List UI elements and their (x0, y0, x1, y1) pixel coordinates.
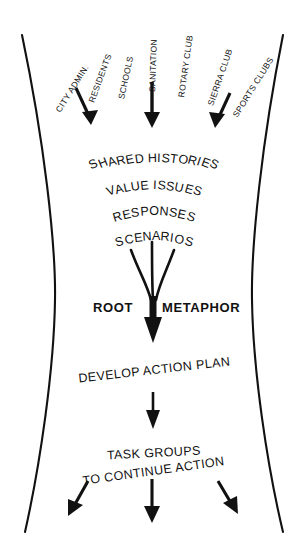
root-metaphor-right-label: METAPHOR (162, 300, 240, 315)
convergence-funnel (131, 242, 174, 343)
root-metaphor-diagram: CITY ADMIN. RESIDENTS SCHOOLS SANITATION… (0, 0, 308, 547)
arc-character: A (152, 229, 160, 243)
arc-character: H (148, 151, 157, 165)
outcome-line-2: TO CONTINUE ACTION (0, 461, 308, 479)
right-outflow-arrow (218, 481, 238, 514)
root-metaphor-left-label: ROOT (93, 300, 133, 315)
outcome-line-1: TASK GROUPS (0, 443, 308, 461)
arc-character: D (134, 151, 145, 166)
arc-character: N (142, 229, 152, 244)
arc-character: P (140, 204, 149, 219)
action-plan-arrow (146, 392, 160, 429)
source-label-sanitation: SANITATION (147, 39, 159, 92)
stage-develop-action-plan: DEVELOP ACTION PLAN (0, 360, 308, 378)
center-outflow-arrow (144, 479, 160, 523)
arc-character: O (149, 204, 159, 218)
